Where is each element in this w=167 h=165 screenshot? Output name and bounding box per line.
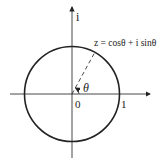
unit-label: 1: [121, 98, 127, 110]
unit-circle-diagram: i 0 1 θ z = cosθ + i sinθ: [0, 0, 167, 165]
imaginary-axis-label: i: [76, 10, 80, 24]
point-label: z = cosθ + i sinθ: [94, 38, 157, 48]
origin-label: 0: [75, 98, 81, 110]
angle-label: θ: [83, 81, 89, 95]
angle-arc: [76, 88, 80, 94]
